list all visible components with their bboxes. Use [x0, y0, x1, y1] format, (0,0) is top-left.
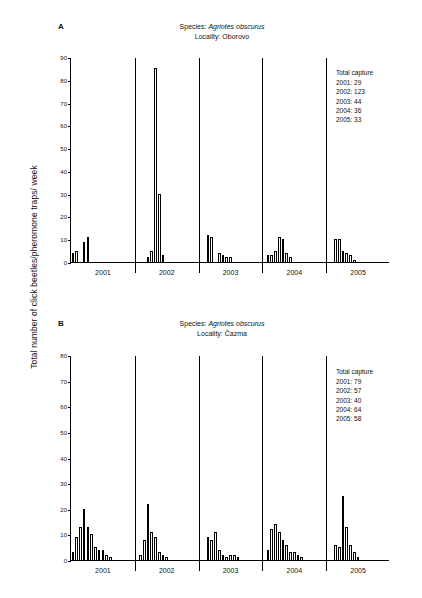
y-tick-label: 10: [60, 532, 67, 538]
x-axis-year-label: 2004: [287, 269, 303, 276]
bar: [338, 239, 341, 262]
y-tick: [68, 561, 71, 562]
bar: [353, 552, 356, 560]
y-tick-label: 20: [60, 507, 67, 513]
bar: [334, 239, 337, 262]
bar: [229, 257, 232, 262]
figure-page: Total number of click beetles/pheromone …: [0, 0, 422, 598]
bar: [357, 557, 360, 560]
y-tick-label: 70: [60, 101, 67, 107]
bar: [98, 550, 101, 560]
y-tick-label: 0: [64, 558, 67, 564]
y-tick-label: 40: [60, 456, 67, 462]
year-divider: [326, 356, 327, 571]
bar: [285, 253, 288, 262]
bar: [289, 552, 292, 560]
bar: [342, 496, 345, 560]
panel-a-title: Species: Agriotes obscurus Locality: Obo…: [122, 22, 322, 42]
panel-a-species-line: Species: Agriotes obscurus: [180, 23, 265, 30]
bar: [94, 547, 97, 560]
panel-a-locality: Locality: Oborovo: [195, 33, 249, 40]
bar: [75, 251, 78, 262]
bar: [150, 532, 153, 560]
bar: [150, 251, 153, 262]
bar: [225, 557, 228, 560]
bar: [207, 537, 210, 560]
panel-a-species: Agriotes obscurus: [208, 23, 264, 30]
panel-b-letter: B: [58, 319, 64, 328]
year-divider: [262, 58, 263, 273]
panel-b-species-prefix: Species:: [180, 320, 209, 327]
year-divider: [262, 356, 263, 571]
bar: [162, 555, 165, 560]
panel-b-species: Agriotes obscurus: [208, 320, 264, 327]
y-tick: [68, 433, 71, 434]
bar: [87, 237, 90, 262]
bar: [210, 237, 213, 262]
bar: [154, 68, 157, 262]
bar: [79, 527, 82, 560]
bar: [237, 557, 240, 560]
y-tick-label: 60: [60, 404, 67, 410]
panel-b-species-line: Species: Agriotes obscurus: [180, 320, 265, 327]
y-tick: [68, 356, 71, 357]
panel-a-plot-area: 010203040506070809020012002200320042005: [70, 58, 389, 263]
bar: [147, 257, 150, 262]
x-axis-year-label: 2003: [223, 567, 239, 574]
bar: [233, 555, 236, 560]
year-divider: [135, 58, 136, 273]
bar: [83, 242, 86, 263]
bar: [267, 255, 270, 262]
bar: [349, 545, 352, 560]
bar: [139, 555, 142, 560]
panel-b: B Species: Agriotes obscurus Locality: Č…: [0, 300, 422, 598]
y-tick: [68, 172, 71, 173]
year-divider: [199, 356, 200, 571]
bar: [225, 257, 228, 262]
y-tick: [68, 81, 71, 82]
x-axis-year-label: 2005: [350, 567, 366, 574]
bar: [278, 237, 281, 262]
bar: [72, 552, 75, 560]
y-tick: [68, 126, 71, 127]
bar: [297, 555, 300, 560]
bar: [72, 253, 75, 262]
bar: [158, 194, 161, 262]
x-axis-year-label: 2004: [287, 567, 303, 574]
bar: [274, 524, 277, 560]
bar: [218, 550, 221, 560]
bar: [334, 545, 337, 560]
bar: [293, 552, 296, 560]
bar: [300, 557, 303, 560]
x-axis-year-label: 2005: [350, 269, 366, 276]
year-divider: [199, 58, 200, 273]
bar: [345, 253, 348, 262]
year-divider: [135, 356, 136, 571]
y-tick-label: 80: [60, 78, 67, 84]
y-tick-label: 60: [60, 123, 67, 129]
x-axis-year-label: 2003: [223, 269, 239, 276]
y-tick-label: 20: [60, 214, 67, 220]
bar: [278, 532, 281, 560]
y-tick: [68, 407, 71, 408]
y-tick-label: 30: [60, 481, 67, 487]
y-tick-label: 90: [60, 55, 67, 61]
panel-a-species-prefix: Species:: [180, 23, 209, 30]
bar: [282, 239, 285, 262]
bar: [270, 529, 273, 560]
y-tick-label: 50: [60, 430, 67, 436]
y-tick: [68, 217, 71, 218]
bar: [289, 257, 292, 262]
bar: [345, 527, 348, 560]
bar: [158, 552, 161, 560]
y-tick: [68, 58, 71, 59]
bar: [207, 235, 210, 262]
bar: [274, 251, 277, 262]
bar: [349, 255, 352, 262]
bar: [154, 537, 157, 560]
bar: [210, 540, 213, 561]
y-tick: [68, 535, 71, 536]
bar: [165, 557, 168, 560]
y-tick: [68, 195, 71, 196]
y-tick: [68, 484, 71, 485]
